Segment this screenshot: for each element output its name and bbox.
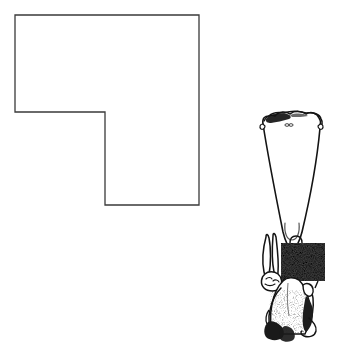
sack-left-nub bbox=[260, 124, 265, 129]
briefcase-texture bbox=[281, 243, 325, 281]
sack-right-nub bbox=[318, 124, 323, 129]
illustration-artwork bbox=[0, 0, 338, 355]
illustration-canvas: Black and white cartoon line drawing: an… bbox=[0, 0, 338, 355]
